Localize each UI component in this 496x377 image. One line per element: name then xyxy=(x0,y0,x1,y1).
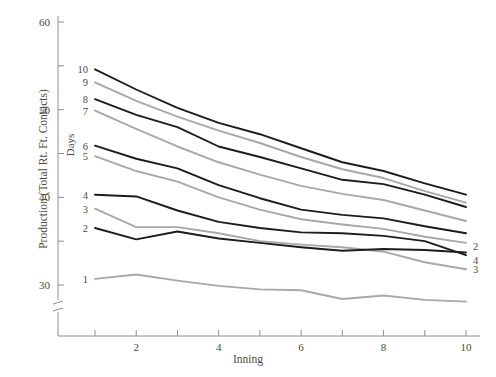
legend-group-title: Days xyxy=(64,134,76,157)
y-axis-break-icon xyxy=(53,301,63,311)
series-right-label-3: 3 xyxy=(473,264,478,275)
chart-series-lines xyxy=(95,69,466,301)
series-left-label-6: 6 xyxy=(83,141,88,152)
series-left-label-3: 3 xyxy=(83,204,88,215)
series-line-6 xyxy=(95,146,466,234)
y-axis-title: Production (Total Rt. Ft. Contacts) xyxy=(37,89,49,249)
x-axis-title-wrap: Inning xyxy=(0,349,496,367)
series-left-label-1: 1 xyxy=(83,274,88,285)
chart-text-labels: 3040506024681010987654321243 xyxy=(39,16,479,353)
series-line-2 xyxy=(95,228,466,253)
chart-canvas: 3040506024681010987654321243 xyxy=(0,0,496,377)
series-line-10 xyxy=(95,69,466,194)
y-axis-title-wrap: Production (Total Rt. Ft. Contacts) xyxy=(33,39,51,299)
series-line-9 xyxy=(95,82,466,202)
series-left-label-5: 5 xyxy=(83,151,88,162)
legend-group-title-wrap: Days xyxy=(60,115,78,175)
series-line-8 xyxy=(95,99,466,207)
x-axis-title: Inning xyxy=(233,353,263,365)
series-right-label-2: 2 xyxy=(473,241,478,252)
series-left-label-8: 8 xyxy=(83,94,88,105)
series-left-label-4: 4 xyxy=(83,190,89,201)
series-left-label-9: 9 xyxy=(83,77,88,88)
line-chart: 3040506024681010987654321243 Production … xyxy=(0,0,496,377)
series-left-label-2: 2 xyxy=(83,223,88,234)
series-left-label-10: 10 xyxy=(78,64,89,75)
series-line-1 xyxy=(95,274,466,301)
y-axis-tick-label: 60 xyxy=(39,16,51,28)
series-left-label-7: 7 xyxy=(83,106,88,117)
